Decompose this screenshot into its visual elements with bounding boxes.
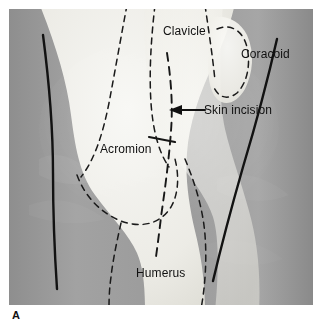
label-humerus: Humerus — [136, 267, 185, 279]
figure-panel: Clavicle Coracoid Skin incision Acromion… — [0, 0, 321, 323]
label-clavicle: Clavicle — [163, 25, 206, 37]
figure-caption-letter: A — [12, 310, 20, 321]
label-acromion: Acromion — [100, 143, 151, 155]
label-coracoid: Coracoid — [241, 48, 290, 60]
label-skin-incision: Skin incision — [204, 104, 272, 116]
